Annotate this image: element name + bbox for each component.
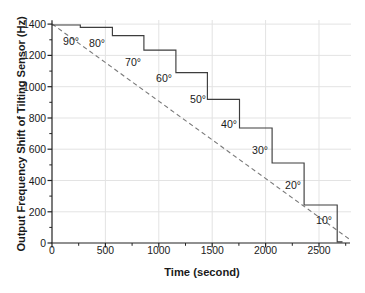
x-tick-label: 2000 — [246, 245, 286, 256]
x-tick-label: 0 — [32, 245, 72, 256]
y-axis-title: Output Frequency Shift of Tilting Sensor… — [15, 9, 27, 259]
vertical-gridlines — [105, 20, 319, 243]
trend-line-dashed — [52, 24, 350, 240]
step-annotation-30deg: 30° — [252, 144, 268, 156]
x-tick-label: 1000 — [139, 245, 179, 256]
step-annotation-40deg: 40° — [221, 118, 237, 130]
step-annotation-90deg: 90° — [63, 35, 79, 47]
step-annotation-10deg: 10° — [316, 214, 332, 226]
y-axis — [48, 20, 53, 243]
x-axis-title: Time (second) — [52, 266, 352, 278]
step-annotation-80deg: 80° — [89, 37, 105, 49]
step-annotation-50deg: 50° — [190, 93, 206, 105]
chart-container: 0 200 400 600 800 1000 1200 1400 0 500 1… — [0, 0, 365, 293]
x-tick-label: 2500 — [299, 245, 339, 256]
step-response-curve — [52, 25, 343, 242]
horizontal-gridlines — [52, 24, 351, 212]
step-annotation-60deg: 60° — [156, 72, 172, 84]
x-tick-label: 500 — [85, 245, 125, 256]
x-tick-labels: 0 500 1000 1500 2000 2500 — [0, 245, 365, 261]
step-annotation-20deg: 20° — [285, 179, 301, 191]
step-annotation-70deg: 70° — [125, 56, 141, 68]
x-tick-label: 1500 — [192, 245, 232, 256]
